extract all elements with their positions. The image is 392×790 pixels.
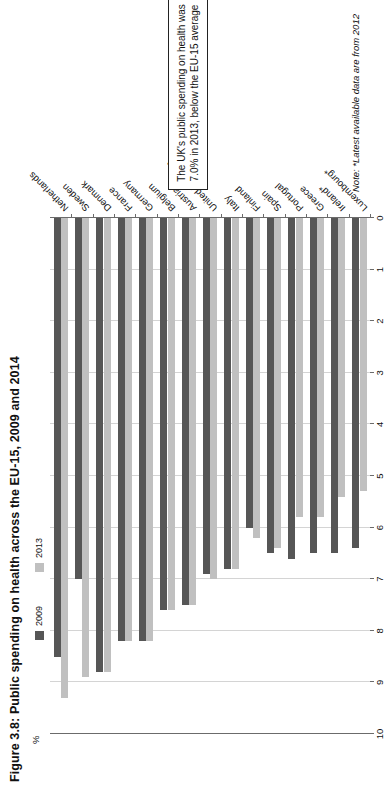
bar-2013-luxembourg	[360, 218, 367, 491]
bar-2009-austria	[182, 218, 189, 605]
bar-2013-austria	[189, 218, 196, 605]
bar-group-united-kingdom	[199, 218, 220, 734]
bar-2009-ireland	[331, 218, 338, 553]
bar-2009-france	[118, 218, 125, 641]
bar-2013-germany	[146, 218, 153, 641]
x-tick-label: 3	[374, 370, 385, 375]
bar-2009-netherlands	[54, 218, 61, 657]
bar-group-luxembourg	[349, 218, 370, 734]
bar-2013-spain	[274, 218, 281, 548]
bar-2009-luxembourg	[352, 218, 359, 548]
x-tick-label: 8	[374, 628, 385, 633]
bar-2013-sweden	[82, 218, 89, 677]
figure-title: Figure 3.8: Public spending on health ac…	[8, 356, 22, 782]
chart-legend: 20092013	[34, 538, 44, 640]
bar-2013-netherlands	[61, 218, 68, 698]
bar-group-greece	[306, 218, 327, 734]
bar-2013-greece	[317, 218, 324, 517]
bar-group-belgium	[157, 218, 178, 734]
bar-group-finland	[242, 218, 263, 734]
bar-group-germany	[135, 218, 156, 734]
callout-box: The UK's public spending on health was 7…	[168, 0, 208, 190]
figure-note: Note: *Latest available data are from 20…	[350, 14, 361, 192]
x-tick-label: 7	[374, 577, 385, 582]
bar-2009-belgium	[160, 218, 167, 610]
bar-2009-sweden	[75, 218, 82, 579]
bar-rows	[50, 218, 370, 734]
x-tick-label: 6	[374, 525, 385, 530]
legend-label: 2009	[34, 606, 44, 626]
bar-group-france	[114, 218, 135, 734]
bar-group-ireland	[327, 218, 348, 734]
x-tick-label: 2	[374, 319, 385, 324]
bar-2013-italy	[232, 218, 239, 569]
x-tick-label: 9	[374, 680, 385, 685]
bar-2009-portugal	[288, 218, 295, 559]
x-tick-label: 1	[374, 267, 385, 272]
x-tick-label: 4	[374, 422, 385, 427]
bar-2013-united-kingdom	[210, 218, 217, 579]
bar-group-austria	[178, 218, 199, 734]
bar-2013-ireland	[338, 218, 345, 497]
legend-swatch-icon	[35, 563, 44, 572]
rotated-figure-canvas: Figure 3.8: Public spending on health ac…	[0, 0, 392, 790]
bar-2009-denmark	[96, 218, 103, 672]
bar-group-spain	[263, 218, 284, 734]
bar-2009-united-kingdom	[203, 218, 210, 574]
bar-2009-greece	[310, 218, 317, 553]
legend-swatch-icon	[35, 631, 44, 640]
legend-item-2009: 2009	[34, 606, 44, 640]
bar-group-sweden	[71, 218, 92, 734]
bar-2009-italy	[224, 218, 231, 569]
x-tick-label: 5	[374, 473, 385, 478]
bar-group-italy	[221, 218, 242, 734]
bar-2009-germany	[139, 218, 146, 641]
figure-container: Figure 3.8: Public spending on health ac…	[0, 0, 392, 790]
bar-group-netherlands	[50, 218, 71, 734]
legend-label: 2013	[34, 538, 44, 558]
bar-2013-finland	[253, 218, 260, 538]
plot-area: 012345678910 NetherlandsSwedenDenmarkFra…	[50, 218, 370, 734]
bar-group-denmark	[93, 218, 114, 734]
bar-2013-denmark	[104, 218, 111, 672]
x-tick-label: 10	[374, 729, 385, 740]
x-tick-label: 0	[374, 215, 385, 220]
bar-2009-finland	[246, 218, 253, 528]
bar-2013-portugal	[296, 218, 303, 517]
bar-2009-spain	[267, 218, 274, 553]
legend-item-2013: 2013	[34, 538, 44, 572]
bar-2013-france	[125, 218, 132, 641]
bar-2013-belgium	[168, 218, 175, 610]
bar-group-portugal	[285, 218, 306, 734]
axis-unit-label: %	[30, 736, 41, 744]
